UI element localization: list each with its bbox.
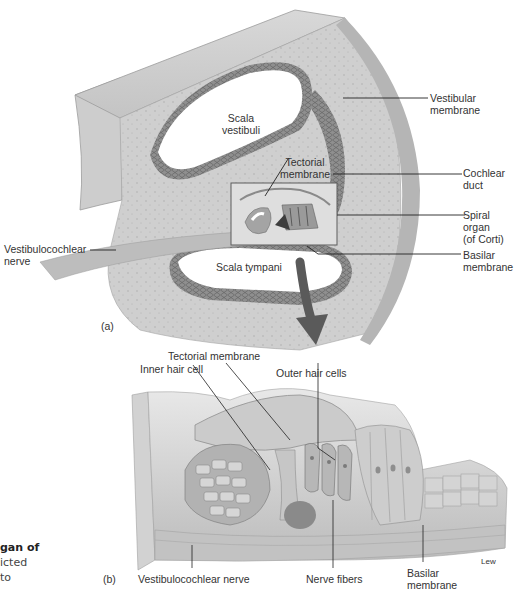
panel-b-label: (b) <box>103 573 116 585</box>
panel-a-illustration <box>40 10 420 350</box>
label-vestibular-membrane: Vestibular membrane <box>430 92 480 116</box>
label-inner-hair-cell: Inner hair cell <box>140 363 203 375</box>
label-scala-tympani: Scala tympani <box>216 261 282 273</box>
panel-a-label: (a) <box>101 320 114 332</box>
label-vestibulocochlear-nerve-a: Vestibulocochlear nerve <box>4 243 86 267</box>
label-scala-vestibuli: Scala vestibuli <box>213 112 269 136</box>
cochlea-figure: Scala vestibuli Vestibular membrane Tect… <box>0 0 517 594</box>
caption-line-1: gan of <box>0 540 39 555</box>
label-tectorial-membrane-b: Tectorial membrane <box>168 350 260 362</box>
label-vestibulocochlear-nerve-b: Vestibulocochlear nerve <box>138 573 250 585</box>
caption-fragment: gan of icted to <box>0 540 39 585</box>
caption-line-2: icted <box>0 555 39 570</box>
label-outer-hair-cells: Outer hair cells <box>276 367 347 379</box>
label-basilar-membrane-b: Basilar membrane <box>407 567 457 591</box>
cochlea-illustration <box>0 0 517 594</box>
caption-line-3: to <box>0 570 39 585</box>
label-cochlear-duct: Cochlear duct <box>463 167 505 191</box>
label-basilar-membrane-a: Basilar membrane <box>463 249 513 273</box>
label-nerve-fibers: Nerve fibers <box>306 573 363 585</box>
label-spiral-organ: Spiral organ (of Corti) <box>463 209 517 245</box>
panel-b-illustration <box>132 389 507 570</box>
artist-signature: Lew <box>481 556 496 568</box>
label-tectorial-membrane-a: Tectorial membrane <box>275 156 335 180</box>
